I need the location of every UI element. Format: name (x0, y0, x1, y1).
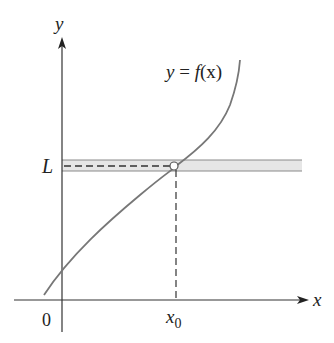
function-label-eq: = (174, 61, 194, 82)
function-label: y = f(x) (164, 61, 222, 83)
x-axis-label: x (312, 289, 322, 310)
function-curve (44, 60, 240, 295)
x0-label: x0 (165, 306, 181, 331)
limit-diagram: y x 0 L y = f(x) x0 (0, 0, 334, 343)
open-point-marker (170, 162, 178, 170)
y-axis-label: y (53, 13, 64, 34)
origin-label: 0 (42, 310, 51, 330)
limit-label: L (41, 155, 53, 177)
